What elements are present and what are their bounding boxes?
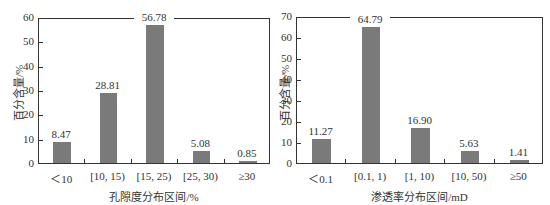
x-tick-mark (177, 159, 178, 163)
y-tick-label: 0 (270, 158, 292, 169)
y-tick-mark (297, 38, 301, 39)
y-tick-mark (297, 80, 301, 81)
y-tick-mark (39, 42, 43, 43)
x-tick-mark (395, 159, 396, 163)
y-tick-label: 0 (12, 158, 34, 169)
bar (461, 151, 480, 163)
bar (53, 142, 71, 163)
x-axis-label: 渗透率分布区间/mD (296, 188, 543, 204)
bar-value-label: 5.63 (449, 138, 489, 149)
y-axis-label: 百分含量/% (10, 65, 26, 121)
x-axis-label: 孔隙度分布区间/% (38, 188, 270, 204)
y-tick-mark (39, 67, 43, 68)
bar-value-label: 64.79 (350, 14, 390, 25)
y-tick-mark (297, 59, 301, 60)
y-tick-label: 10 (12, 134, 34, 145)
x-tick-label: ≥30 (219, 170, 275, 182)
y-tick-label: 60 (12, 12, 34, 23)
bar (362, 27, 381, 163)
bar (411, 128, 430, 163)
y-tick-label: 70 (270, 11, 292, 22)
x-tick-mark (131, 159, 132, 163)
y-tick-mark (39, 115, 43, 116)
bar (312, 139, 331, 163)
permeability-distribution-chart: 01020304050607011.27＜0.164.79[0.1, 1)16.… (275, 0, 550, 205)
bar (193, 151, 211, 163)
bar-value-label: 56.78 (134, 12, 174, 23)
y-tick-label: 10 (270, 137, 292, 148)
x-tick-label: ＜0.1 (293, 170, 349, 186)
bar-value-label: 8.47 (41, 129, 81, 140)
x-tick-label: [10, 50) (441, 170, 497, 182)
x-tick-mark (345, 159, 346, 163)
x-tick-label: [0.1, 1) (342, 170, 398, 182)
x-tick-label: ≥50 (490, 170, 546, 182)
bar (239, 161, 257, 163)
bar-value-label: 5.08 (180, 138, 220, 149)
plot-area (38, 18, 270, 164)
x-tick-mark (84, 159, 85, 163)
bar-value-label: 0.85 (227, 148, 267, 159)
porosity-distribution-chart: 01020304050608.47＜1028.81[10, 15)56.78[1… (0, 0, 275, 205)
bar-value-label: 28.81 (88, 80, 128, 91)
y-axis-label: 百分含量/% (276, 64, 292, 120)
y-tick-mark (297, 143, 301, 144)
y-tick-label: 50 (12, 36, 34, 47)
x-tick-label: [1, 10) (392, 170, 448, 182)
y-tick-mark (297, 101, 301, 102)
bar (146, 25, 164, 163)
y-tick-mark (39, 91, 43, 92)
x-tick-mark (224, 159, 225, 163)
y-tick-mark (297, 122, 301, 123)
x-tick-mark (494, 159, 495, 163)
bar-value-label: 16.90 (400, 115, 440, 126)
x-tick-mark (444, 159, 445, 163)
bar (100, 93, 118, 163)
y-tick-label: 60 (270, 32, 292, 43)
bar-value-label: 1.41 (498, 147, 538, 158)
bar (510, 160, 529, 163)
y-tick-label: 50 (270, 53, 292, 64)
bar-value-label: 11.27 (301, 126, 341, 137)
plot-area (296, 17, 543, 164)
